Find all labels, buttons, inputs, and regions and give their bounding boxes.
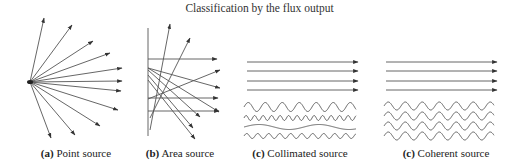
ray-arrow <box>30 82 100 126</box>
coherent-wave <box>384 122 494 130</box>
coherent-source-panel <box>384 62 497 140</box>
caption-label: Coherent source <box>418 147 490 159</box>
ray-arrow <box>30 68 122 82</box>
coherent-wave <box>384 112 494 120</box>
caption-area-source: (b) Area source <box>146 147 214 159</box>
ray-arrow <box>30 82 75 135</box>
incoherent-wave <box>244 116 356 121</box>
incoherent-wave <box>244 134 356 139</box>
ray-arrow <box>30 53 110 82</box>
ray-arrow <box>30 81 122 82</box>
caption-tag: (c) <box>252 147 264 159</box>
ray-arrow <box>30 82 51 138</box>
ray-arrow <box>148 70 200 117</box>
coherent-wave <box>384 102 494 110</box>
ray-arrow <box>148 75 193 128</box>
coherent-wave <box>384 132 494 140</box>
caption-collimated-source: (c) Collimated source <box>252 147 347 159</box>
caption-tag: (a) <box>41 147 54 159</box>
ray-arrow <box>150 24 170 130</box>
caption-label: Area source <box>161 147 214 159</box>
area-source-panel <box>148 24 220 139</box>
incoherent-wave <box>244 103 356 112</box>
collimated-source-panel <box>244 62 358 138</box>
caption-label: Point source <box>56 147 111 159</box>
caption-tag: (b) <box>146 147 159 159</box>
ray-arrow <box>148 80 195 139</box>
incoherent-wave <box>244 125 356 130</box>
caption-tag: (c) <box>403 147 415 159</box>
ray-arrow <box>30 41 93 82</box>
point-source-dot <box>27 80 33 84</box>
caption-point-source: (a) Point source <box>41 147 111 159</box>
caption-label: Collimated source <box>267 147 347 159</box>
flux-classification-diagram <box>0 0 519 165</box>
caption-coherent-source: (c) Coherent source <box>403 147 490 159</box>
point-source-panel <box>27 18 122 138</box>
